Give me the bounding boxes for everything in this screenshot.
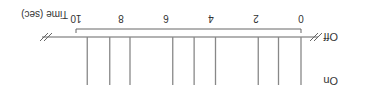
tick-label-0: 0: [298, 13, 304, 24]
tick-label-4: 4: [208, 13, 214, 24]
axis-bracket: [76, 29, 301, 33]
spike-train-diagram: On Off 0246810 Time (sec): [0, 0, 368, 103]
tick-label-6: 6: [163, 13, 169, 24]
time-axis: 0246810: [70, 13, 304, 33]
tick-label-8: 8: [118, 13, 124, 24]
spikes: [87, 37, 301, 85]
axis-title: Time (sec): [21, 9, 68, 20]
on-label: On: [323, 75, 338, 87]
baseline-group: [40, 33, 322, 41]
diagram-canvas: On Off 0246810 Time (sec): [0, 0, 368, 103]
tick-label-2: 2: [253, 13, 259, 24]
tick-label-10: 10: [70, 13, 82, 24]
off-label: Off: [323, 31, 338, 43]
